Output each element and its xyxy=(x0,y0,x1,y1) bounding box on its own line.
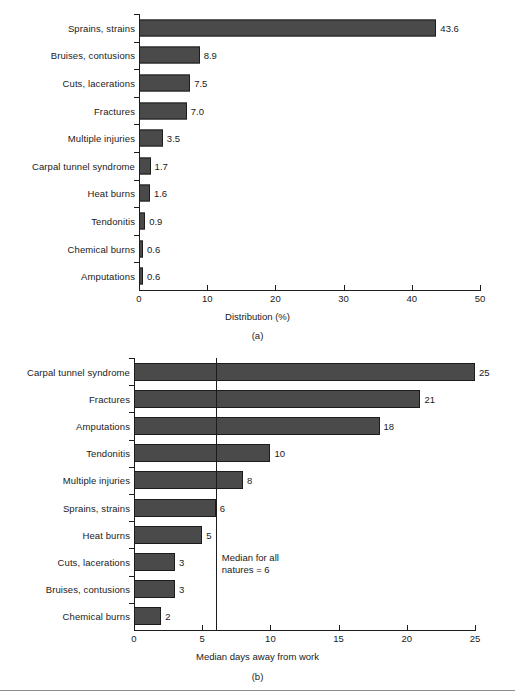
chart-row: Heat burns5 xyxy=(0,521,515,548)
category-label: Tendonitis xyxy=(86,448,130,459)
chart-row: Heat burns1.6 xyxy=(0,180,515,208)
median-annotation-line2: natures = 6 xyxy=(222,564,279,576)
chart-row: Chemical burns0.6 xyxy=(0,235,515,263)
bar xyxy=(139,47,200,64)
category-label: Sprains, strains xyxy=(63,502,130,513)
bar xyxy=(139,212,145,229)
bar-value-label: 0.9 xyxy=(149,215,162,226)
bar-value-label: 1.6 xyxy=(154,188,167,199)
chart-row: Chemical burns2 xyxy=(0,603,515,630)
x-axis-tick xyxy=(139,285,140,290)
x-axis-tick xyxy=(134,625,135,630)
median-annotation: Median for allnatures = 6 xyxy=(222,552,279,576)
bar xyxy=(134,444,270,462)
footer-divider xyxy=(0,690,515,691)
x-axis-tick-label: 20 xyxy=(402,633,413,644)
bar-value-label: 0.6 xyxy=(147,271,160,282)
median-annotation-line1: Median for all xyxy=(222,552,279,564)
chart-panel-a: Sprains, strains43.6Bruises, contusions8… xyxy=(0,0,515,348)
x-axis-tick xyxy=(412,285,413,290)
x-axis-tick-label: 30 xyxy=(338,293,349,304)
bar-value-label: 3 xyxy=(179,556,184,567)
x-axis-tick xyxy=(407,625,408,630)
x-axis-line xyxy=(134,630,476,631)
bar xyxy=(139,240,143,257)
chart-row: Sprains, strains43.6 xyxy=(0,14,515,42)
bar-value-label: 5 xyxy=(206,529,211,540)
bar-value-label: 3.5 xyxy=(167,133,180,144)
chart-row: Bruises, contusions8.9 xyxy=(0,42,515,70)
chart-row: Sprains, strains6 xyxy=(0,494,515,521)
panel-caption: (b) xyxy=(0,671,515,682)
category-label: Fractures xyxy=(94,105,135,116)
median-reference-line xyxy=(216,358,217,630)
bar-value-label: 43.6 xyxy=(440,22,459,33)
bar-value-label: 18 xyxy=(384,420,395,431)
chart-row: Cuts, lacerations7.5 xyxy=(0,69,515,97)
x-axis-tick xyxy=(270,625,271,630)
x-axis-tick-label: 5 xyxy=(200,633,205,644)
bar xyxy=(139,157,151,174)
category-label: Amputations xyxy=(76,420,130,431)
bar-value-label: 7.5 xyxy=(194,77,207,88)
category-label: Sprains, strains xyxy=(68,22,135,33)
x-axis-tick-label: 20 xyxy=(270,293,281,304)
category-label: Bruises, contusions xyxy=(46,584,130,595)
bar-value-label: 21 xyxy=(424,393,435,404)
x-axis-tick-label: 40 xyxy=(407,293,418,304)
bar xyxy=(139,185,150,202)
x-axis-tick-label: 10 xyxy=(202,293,213,304)
x-axis-title: Median days away from work xyxy=(0,651,515,662)
x-axis-tick-label: 50 xyxy=(475,293,486,304)
x-axis-tick-label: 10 xyxy=(265,633,276,644)
category-label: Carpal tunnel syndrome xyxy=(27,366,130,377)
bar xyxy=(139,130,163,147)
category-label: Multiple injuries xyxy=(63,475,130,486)
bar xyxy=(134,526,202,544)
bar xyxy=(134,417,380,435)
bar xyxy=(139,102,187,119)
category-label: Cuts, lacerations xyxy=(58,556,130,567)
x-axis-tick xyxy=(275,285,276,290)
chart-row: Carpal tunnel syndrome25 xyxy=(0,358,515,385)
bar xyxy=(139,19,436,36)
bar xyxy=(134,471,243,489)
x-axis-tick-label: 25 xyxy=(470,633,481,644)
category-label: Amputations xyxy=(81,271,135,282)
category-label: Heat burns xyxy=(88,188,135,199)
bar xyxy=(134,363,475,381)
bar-value-label: 10 xyxy=(274,448,285,459)
chart-row: Multiple injuries8 xyxy=(0,467,515,494)
chart-row: Amputations18 xyxy=(0,412,515,439)
bar-value-label: 2 xyxy=(165,611,170,622)
x-axis-tick xyxy=(202,625,203,630)
bar-value-label: 1.7 xyxy=(155,160,168,171)
bar xyxy=(134,580,175,598)
category-label: Cuts, lacerations xyxy=(63,77,135,88)
category-label: Tendonitis xyxy=(91,215,135,226)
x-axis-tick xyxy=(475,625,476,630)
chart-row: Carpal tunnel syndrome1.7 xyxy=(0,152,515,180)
chart-row: Fractures21 xyxy=(0,385,515,412)
category-label: Fractures xyxy=(89,393,130,404)
bar-value-label: 25 xyxy=(479,366,490,377)
x-axis-tick-label: 0 xyxy=(136,293,141,304)
chart-row: Amputations0.6 xyxy=(0,262,515,290)
bar xyxy=(134,553,175,571)
x-axis-tick xyxy=(339,625,340,630)
chart-row: Bruises, contusions3 xyxy=(0,576,515,603)
bar-value-label: 0.6 xyxy=(147,243,160,254)
category-label: Chemical burns xyxy=(63,611,130,622)
x-axis-line xyxy=(139,290,481,291)
x-axis-tick xyxy=(344,285,345,290)
bar-value-label: 8.9 xyxy=(204,50,217,61)
bar xyxy=(134,499,216,517)
chart-row: Fractures7.0 xyxy=(0,97,515,125)
chart-panel-b: Carpal tunnel syndrome25Fractures21Amput… xyxy=(0,348,515,688)
panel-caption: (a) xyxy=(0,330,515,341)
x-axis-tick-label: 15 xyxy=(333,633,344,644)
bar xyxy=(134,390,420,408)
category-label: Heat burns xyxy=(83,529,130,540)
category-label: Carpal tunnel syndrome xyxy=(32,160,135,171)
bar-value-label: 6 xyxy=(220,502,225,513)
